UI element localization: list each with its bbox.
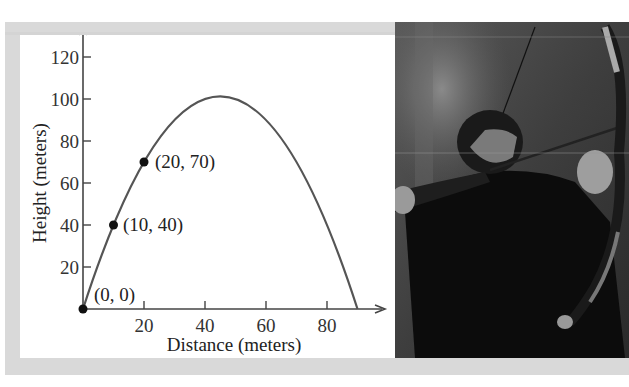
data-point-10-40 [109, 221, 118, 230]
svg-text:40: 40 [196, 315, 215, 336]
data-point-20-70 [140, 158, 149, 167]
svg-text:20: 20 [135, 315, 154, 336]
x-axis-title: Distance (meters) [167, 334, 302, 356]
svg-text:80: 80 [60, 131, 79, 152]
svg-text:40: 40 [60, 215, 79, 236]
svg-text:80: 80 [318, 315, 337, 336]
point-label-20-70: (20, 70) [155, 151, 215, 173]
y-ticks [83, 57, 91, 267]
svg-text:100: 100 [51, 89, 80, 110]
archer-photo [395, 22, 629, 358]
x-ticks [144, 301, 327, 309]
trajectory-curve [83, 96, 358, 309]
svg-text:60: 60 [60, 173, 79, 194]
svg-text:120: 120 [51, 47, 80, 68]
chart-panel: 20 40 60 80 100 120 20 40 60 80 Distance… [20, 35, 395, 358]
svg-text:20: 20 [60, 257, 79, 278]
y-tick-labels: 20 40 60 80 100 120 [51, 47, 80, 278]
point-label-origin: (0, 0) [94, 284, 135, 306]
y-axis-title: Height (meters) [29, 123, 51, 243]
x-tick-labels: 20 40 60 80 [135, 315, 337, 336]
svg-text:60: 60 [257, 315, 276, 336]
trajectory-chart: 20 40 60 80 100 120 20 40 60 80 Distance… [20, 35, 395, 358]
point-label-10-40: (10, 40) [123, 214, 183, 236]
data-point-0-0 [79, 305, 88, 314]
